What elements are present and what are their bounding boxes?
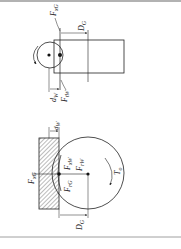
diagram-canvas: FxG DG dW FtW dW [0, 0, 181, 249]
label-fxw-bottom: FxW [63, 156, 73, 171]
torque-arrow [105, 158, 112, 185]
label-dw-top: dW [49, 92, 59, 102]
fxg-leader [55, 18, 60, 31]
label-dw-bottom: dW [52, 121, 61, 131]
ftw-leader [61, 80, 66, 90]
label-fxg-top: FxG [49, 3, 59, 17]
label-dg-bottom: DG [75, 219, 85, 231]
label-ftw-top: FtW [60, 89, 70, 103]
workpiece-rect [54, 40, 124, 73]
contact-dot-bottom [57, 172, 61, 176]
hatched-block [39, 138, 59, 209]
label-fxg-bottom: FxG [27, 171, 37, 185]
top-view: FxG DG dW FtW [33, 3, 124, 103]
label-dg-top: DG [77, 20, 87, 32]
label-frg-bottom: FrG [63, 180, 73, 193]
bottom-view: dW FxG FxW FrW FrG To DG [27, 121, 124, 232]
label-torque: To [113, 168, 123, 175]
label-frw-bottom: FrW [75, 158, 85, 172]
wheel-center-dot [47, 53, 50, 56]
